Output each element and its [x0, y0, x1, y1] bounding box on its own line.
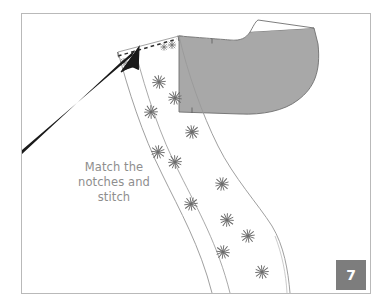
- figure-frame: Match the notches and stitch 7: [21, 13, 371, 294]
- annotation-caption: Match the notches and stitch: [60, 160, 168, 205]
- neckline-facing-piece: [179, 20, 319, 114]
- illustration-page: Match the notches and stitch 7: [0, 0, 392, 308]
- pointer-arrow: [22, 47, 139, 154]
- page-number-badge: 7: [336, 260, 366, 290]
- sewing-diagram: [22, 14, 370, 293]
